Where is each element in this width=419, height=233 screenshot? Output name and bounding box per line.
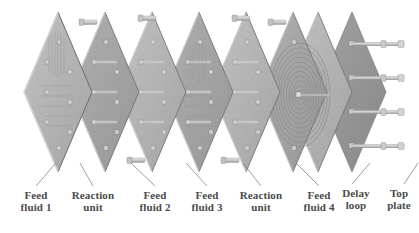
inlet-nozzle-1 [79, 19, 97, 25]
inlet-nozzle-4 [127, 157, 145, 163]
label-feed-fluid-3: Feed fluid 3 [179, 190, 235, 213]
inlet-nozzle-2 [138, 15, 156, 21]
label-delay-loop: Delay loop [332, 188, 380, 211]
figure-canvas: Feed fluid 1 Reaction unit Feed fluid 2 … [0, 0, 419, 233]
inlet-nozzle-3 [232, 15, 250, 21]
leader-reaction-unit-1 [80, 163, 93, 186]
label-feed-fluid-1: Feed fluid 1 [8, 190, 64, 213]
inlet-nozzle-5 [221, 157, 239, 163]
label-feed-fluid-2: Feed fluid 2 [127, 190, 183, 213]
label-reaction-unit-2: Reaction unit [228, 190, 294, 213]
inlet-nozzle-6 [268, 19, 286, 25]
label-top-plate: Top plate [377, 188, 419, 211]
leader-top-plate [404, 163, 418, 184]
leader-reaction-unit-2 [243, 163, 261, 186]
label-reaction-unit-1: Reaction unit [60, 190, 126, 213]
leader-feed-fluid-1 [36, 163, 56, 186]
leader-lines [36, 163, 418, 186]
